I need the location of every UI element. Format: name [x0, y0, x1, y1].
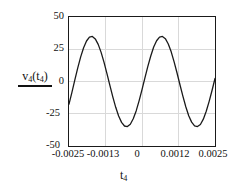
x-tick-label-0: 0: [128, 148, 146, 159]
y-tick-label-25: 25: [38, 42, 64, 53]
plot-area: [68, 16, 216, 147]
y-tick-label-0: 0: [38, 75, 64, 86]
y-tick-label-neg25: -25: [34, 107, 60, 118]
waveform-curve: [69, 17, 215, 146]
y-tick-label-50: 50: [38, 10, 64, 21]
x-tick-label-neg00013: -0.0013: [79, 148, 127, 159]
chart-figure: v4(t4) 50 25 0 -25 -50 -0.0025 -0.0013 0…: [0, 0, 241, 193]
x-tick-label-00025: 0.0025: [189, 148, 237, 159]
x-axis-title-text: t4: [120, 168, 127, 182]
x-axis-title: t4: [120, 168, 127, 183]
